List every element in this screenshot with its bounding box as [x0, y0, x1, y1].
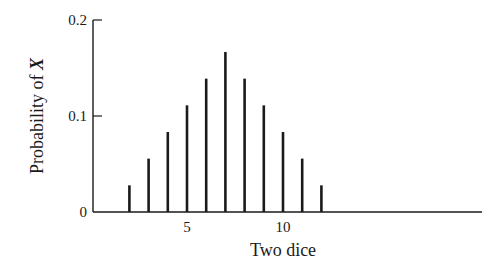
bar-series: [129, 52, 321, 212]
y-axis-label-variable: X: [27, 57, 47, 71]
x-tick-label: 5: [183, 219, 191, 235]
probability-spike-chart: 00.10.2 510 Two dice Probability of X: [0, 0, 503, 264]
y-axis-label-text: Probability of: [27, 70, 47, 174]
y-axis-ticks: 00.10.2: [68, 12, 102, 220]
x-axis-ticks: 510: [183, 219, 290, 235]
y-axis-label: Probability of X: [27, 57, 47, 174]
y-tick-label: 0: [80, 204, 88, 220]
x-tick-label: 10: [276, 219, 291, 235]
x-axis-label: Two dice: [250, 240, 316, 260]
axes: [93, 20, 482, 212]
y-tick-label: 0.1: [68, 108, 87, 124]
y-tick-label: 0.2: [68, 12, 87, 28]
